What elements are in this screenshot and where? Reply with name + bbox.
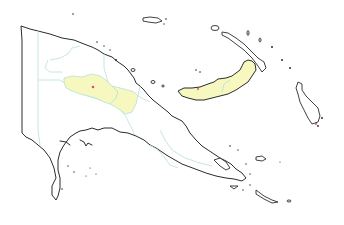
island xyxy=(103,45,104,46)
island xyxy=(115,59,117,61)
island xyxy=(237,149,238,150)
delta-detail xyxy=(80,140,92,146)
island xyxy=(67,165,68,166)
bougainville-island xyxy=(296,82,320,124)
island xyxy=(163,23,164,24)
island xyxy=(211,26,219,31)
location-marker-new-britain[interactable] xyxy=(197,88,199,90)
island xyxy=(259,38,261,42)
island-group xyxy=(256,156,266,161)
island xyxy=(229,145,231,147)
island xyxy=(321,117,323,119)
island xyxy=(289,67,291,69)
island xyxy=(109,49,110,50)
island xyxy=(96,41,98,43)
island xyxy=(271,46,273,48)
mainland-coastline xyxy=(21,26,246,200)
island xyxy=(245,163,246,164)
island xyxy=(95,173,96,174)
island xyxy=(247,31,249,36)
island xyxy=(89,167,90,168)
island xyxy=(242,189,243,190)
island xyxy=(131,69,135,72)
map-canvas xyxy=(0,0,344,225)
island xyxy=(73,171,74,172)
island xyxy=(61,188,63,190)
island xyxy=(249,173,250,174)
island xyxy=(199,71,201,73)
island xyxy=(287,200,291,202)
island xyxy=(165,18,167,20)
island xyxy=(72,13,74,15)
location-marker-bougainville[interactable] xyxy=(315,123,317,125)
island xyxy=(281,59,283,61)
island xyxy=(162,85,164,87)
island xyxy=(85,175,86,176)
island xyxy=(249,184,250,185)
manus-island xyxy=(143,17,162,23)
island-group xyxy=(256,190,278,203)
island xyxy=(279,161,280,162)
new-britain-island[interactable] xyxy=(178,60,256,100)
island xyxy=(317,125,319,127)
island-group xyxy=(230,186,238,189)
island xyxy=(195,69,197,71)
location-marker-highlands[interactable] xyxy=(92,86,95,89)
island xyxy=(151,81,155,84)
